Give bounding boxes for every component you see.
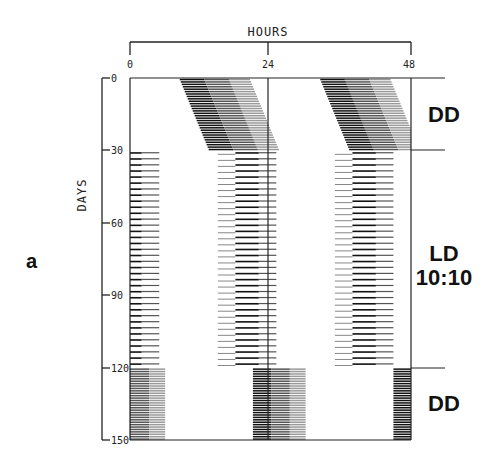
hours-axis: HOURS 0 24 48: [127, 25, 415, 70]
condition-label-dd-top: DD: [414, 103, 474, 127]
y-tick-90: 90: [111, 290, 123, 301]
y-tick-0: 0: [111, 73, 117, 84]
activity-records: [130, 79, 411, 440]
x-tick-0: 0: [127, 59, 133, 70]
days-axis-title: DAYS: [75, 179, 89, 212]
hours-axis-title: HOURS: [247, 25, 288, 39]
condition-label-ld-line1: LD: [414, 242, 474, 266]
x-tick-24: 24: [262, 59, 274, 70]
y-tick-60: 60: [111, 218, 123, 229]
x-tick-48: 48: [403, 59, 415, 70]
condition-label-dd-bottom: DD: [414, 392, 474, 416]
condition-label-ld-line2: 10:10: [414, 266, 474, 290]
panel-label: a: [26, 250, 37, 273]
y-tick-150: 150: [111, 435, 129, 446]
days-axis: 0 30 60 90 120 150 DAYS: [75, 73, 129, 446]
actogram-chart: HOURS 0 24 48 0 30 60 90 120 150 DAYS: [0, 0, 484, 468]
y-tick-30: 30: [111, 145, 123, 156]
condition-label-ld: LD 10:10: [414, 242, 474, 290]
y-tick-120: 120: [111, 363, 129, 374]
